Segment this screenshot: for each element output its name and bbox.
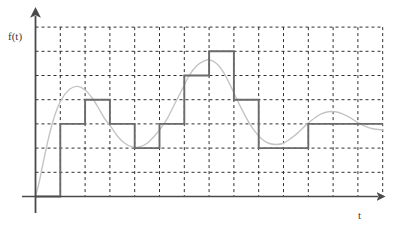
y-axis-label: f(t): [8, 30, 22, 43]
plot-svg: f(t) t: [0, 0, 394, 229]
signal-sampling-figure: f(t) t: [0, 0, 394, 229]
plot-background: [0, 0, 394, 229]
x-axis-label: t: [358, 209, 361, 221]
